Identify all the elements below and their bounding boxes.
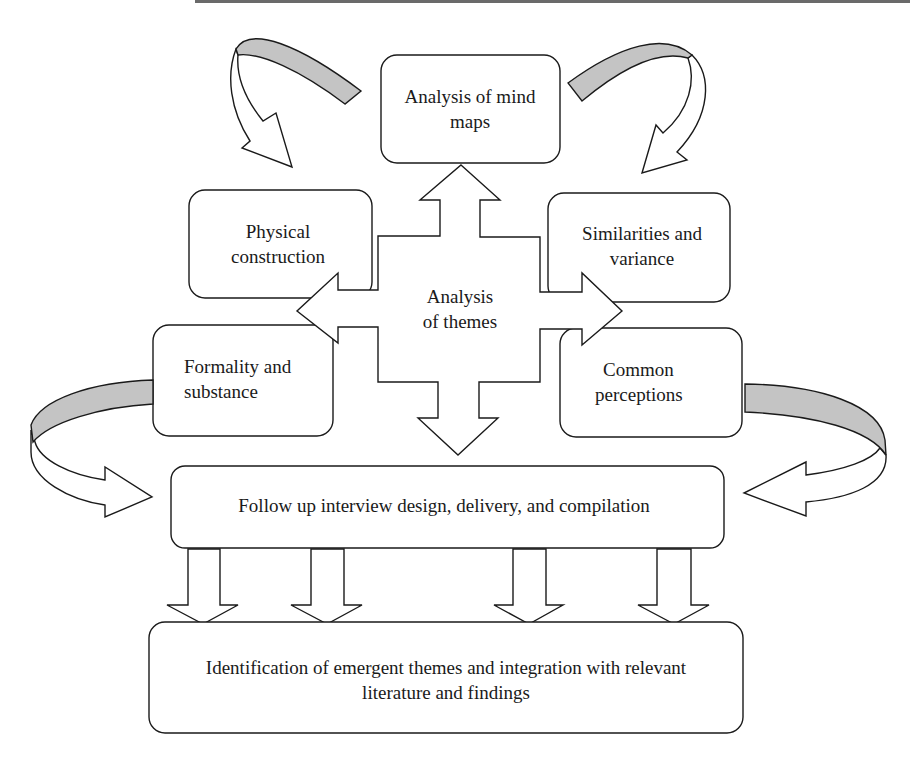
node-label: Formality and xyxy=(184,356,292,377)
node-label: Identification of emergent themes and in… xyxy=(206,657,687,678)
center-label: of themes xyxy=(423,311,497,332)
down-arrows xyxy=(167,549,709,624)
node-label: construction xyxy=(231,246,325,267)
curved-arrow-icon xyxy=(744,448,886,516)
curved-arrow-left xyxy=(31,380,153,517)
curved-arrow-icon xyxy=(231,49,292,167)
node-label: Analysis of mind xyxy=(405,86,536,107)
curved-arrow-band xyxy=(745,384,886,455)
down-arrow-icon xyxy=(638,549,709,624)
node-analysis-of-mind-maps: Analysis of mind maps xyxy=(381,55,560,163)
node-physical-construction: Physical construction xyxy=(189,190,372,298)
curved-arrow-top-right xyxy=(568,44,706,173)
thematic-analysis-diagram: Analysis of mind maps Physical construct… xyxy=(0,0,913,760)
node-emergent-themes: Identification of emergent themes and in… xyxy=(149,622,743,733)
node-follow-up-interview: Follow up interview design, delivery, an… xyxy=(171,466,724,548)
curved-arrow-right xyxy=(744,384,886,516)
node-label: substance xyxy=(184,381,258,402)
curved-arrow-top-left xyxy=(231,39,361,167)
curved-arrow-band xyxy=(568,44,692,101)
down-arrow-icon xyxy=(167,549,238,624)
node-label: Physical xyxy=(246,221,310,242)
curved-arrow-band xyxy=(236,39,361,104)
curved-arrow-icon xyxy=(642,55,706,173)
node-common-perceptions: Common perceptions xyxy=(560,328,742,437)
node-label: literature and findings xyxy=(362,682,530,703)
curved-arrow-band xyxy=(31,380,153,442)
node-similarities-and-variance: Similarities and variance xyxy=(548,193,730,302)
node-label: variance xyxy=(610,248,674,269)
node-label: Follow up interview design, delivery, an… xyxy=(238,495,650,516)
down-arrow-icon xyxy=(494,549,563,624)
node-label: Similarities and xyxy=(582,223,702,244)
node-formality-and-substance: Formality and substance xyxy=(153,325,333,436)
node-label: Common xyxy=(603,359,674,380)
down-arrow-icon xyxy=(291,549,362,624)
curved-arrow-icon xyxy=(31,430,152,517)
node-label: maps xyxy=(450,111,490,132)
center-label: Analysis xyxy=(427,286,494,307)
node-label: perceptions xyxy=(595,384,683,405)
